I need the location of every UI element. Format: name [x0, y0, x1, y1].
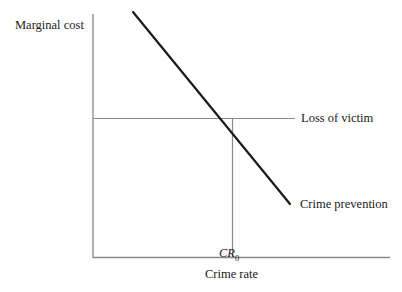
equilibrium-tick-text: CR [219, 246, 235, 260]
loss-of-victim-label: Loss of victim [301, 112, 373, 125]
crime-prevention-line [133, 12, 290, 204]
equilibrium-tick-subscript: 0 [235, 253, 239, 263]
x-axis-label: Crime rate [205, 268, 258, 281]
crime-prevention-label: Crime prevention [300, 198, 388, 211]
economics-diagram: Marginal cost Loss of victim Crime preve… [0, 0, 402, 292]
equilibrium-tick-label: CR0 [219, 247, 239, 262]
y-axis-label: Marginal cost [15, 19, 84, 32]
plot-area [0, 0, 402, 292]
